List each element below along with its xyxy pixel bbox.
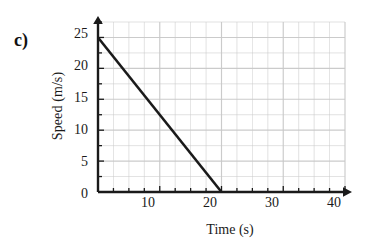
gridlines <box>98 22 345 192</box>
chart-svg <box>0 0 366 249</box>
x-axis-arrowhead <box>343 187 352 197</box>
figure-container: c) Speed (m/s) Time (s) 0 25 20 15 10 5 … <box>0 0 366 249</box>
axis-lines <box>93 16 352 197</box>
y-axis-arrowhead <box>93 16 103 24</box>
